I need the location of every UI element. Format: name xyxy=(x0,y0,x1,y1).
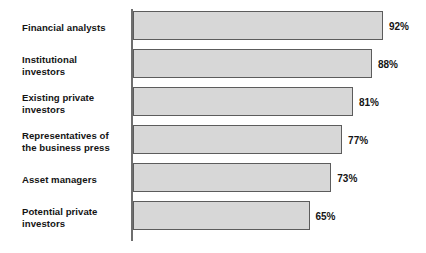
bar-row: Potential private investors 65% xyxy=(0,199,426,237)
category-label-line-2: investors xyxy=(22,218,127,230)
bar xyxy=(133,163,331,192)
category-label-line-1: Institutional xyxy=(22,54,127,66)
category-label-line-1: Existing private xyxy=(22,92,127,104)
bar xyxy=(133,125,342,154)
bar-container: 65% xyxy=(133,201,310,230)
category-label-line-1: Representatives of xyxy=(22,130,127,142)
category-label-line-1: Financial analysts xyxy=(22,22,127,34)
category-label-line-2: investors xyxy=(22,104,127,116)
bar-row: Institutional investors 88% xyxy=(0,47,426,85)
category-label: Financial analysts xyxy=(22,22,127,34)
bar-value-label: 77% xyxy=(348,134,368,145)
bar-value-label: 92% xyxy=(389,20,409,31)
category-label-line-2: the business press xyxy=(22,142,127,154)
category-label: Asset managers xyxy=(22,174,127,186)
bar xyxy=(133,201,310,230)
category-label: Existing private investors xyxy=(22,92,127,115)
category-label-line-1: Asset managers xyxy=(22,174,127,186)
category-label: Representatives of the business press xyxy=(22,130,127,153)
category-label: Potential private investors xyxy=(22,206,127,229)
bar-row: Existing private investors 81% xyxy=(0,85,426,123)
bar-row: Representatives of the business press 77… xyxy=(0,123,426,161)
bar-container: 92% xyxy=(133,11,383,40)
bar-container: 81% xyxy=(133,87,353,116)
bar-value-label: 65% xyxy=(316,210,336,221)
bar-container: 88% xyxy=(133,49,372,78)
category-label: Institutional investors xyxy=(22,54,127,77)
bar xyxy=(133,87,353,116)
bar-value-label: 88% xyxy=(378,58,398,69)
bar-container: 73% xyxy=(133,163,331,192)
horizontal-bar-chart: Financial analysts 92% Institutional inv… xyxy=(0,0,426,253)
category-label-line-2: investors xyxy=(22,66,127,78)
bar-value-label: 81% xyxy=(359,96,379,107)
bar-row: Asset managers 73% xyxy=(0,161,426,199)
bar-container: 77% xyxy=(133,125,342,154)
category-label-line-1: Potential private xyxy=(22,206,127,218)
bar xyxy=(133,11,383,40)
bar-value-label: 73% xyxy=(337,172,357,183)
bar xyxy=(133,49,372,78)
bar-row: Financial analysts 92% xyxy=(0,9,426,47)
